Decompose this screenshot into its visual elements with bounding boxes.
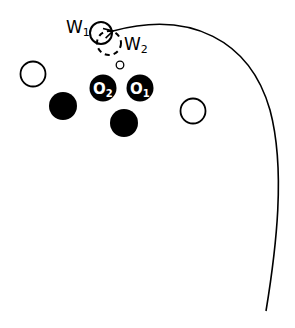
- open-circle-left: [21, 62, 46, 87]
- filled-circle-left: [49, 92, 77, 120]
- small-circle: [116, 61, 124, 69]
- open-circle-right: [181, 99, 206, 124]
- w2-label: W2: [124, 34, 148, 56]
- w1-label: W1: [66, 17, 90, 39]
- filled-circle-center: [110, 109, 138, 137]
- trajectory-arrow: [113, 24, 278, 311]
- diagram-canvas: W1 W2 O2 O1: [0, 0, 295, 328]
